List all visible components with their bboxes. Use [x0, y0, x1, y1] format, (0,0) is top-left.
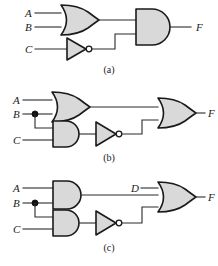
- input-label-a: A: [12, 182, 20, 194]
- not-bubble-bc: [116, 220, 122, 226]
- output-label-f: F: [195, 21, 203, 33]
- not-bubble-bc: [116, 131, 122, 137]
- caption-a: (a): [0, 64, 218, 75]
- circuit-c: A B C D F: [0, 178, 218, 240]
- input-label-c: C: [13, 134, 21, 146]
- or-gate-ab: [52, 92, 90, 122]
- wire-not-to-and: [92, 34, 136, 49]
- caption-c: (c): [0, 242, 218, 253]
- wire-not-to-or: [122, 120, 158, 134]
- not-gate-c: [67, 38, 86, 60]
- input-label-c: C: [25, 43, 33, 55]
- not-bubble-c: [86, 46, 92, 52]
- input-label-b: B: [13, 108, 20, 120]
- and-gate-out: [136, 9, 170, 45]
- not-gate-bc: [96, 122, 116, 146]
- input-label-d: D: [130, 182, 139, 194]
- input-label-b: B: [13, 197, 20, 209]
- caption-b: (b): [0, 152, 218, 163]
- circuit-a: A B C F: [0, 0, 218, 62]
- and-gate-bc: [53, 121, 79, 147]
- input-label-c: C: [13, 223, 21, 235]
- circuit-b: A B C F: [0, 88, 218, 150]
- input-label-b: B: [25, 21, 32, 33]
- input-label-a: A: [24, 7, 32, 19]
- and-gate-bc: [53, 210, 79, 236]
- wire-not-to-or: [122, 207, 158, 223]
- logic-circuit-figure: A B C F (a) A B C: [0, 0, 218, 266]
- output-label-f: F: [207, 191, 215, 203]
- output-label-f: F: [207, 107, 215, 119]
- not-gate-bc: [96, 211, 116, 235]
- or-gate-ab: [61, 5, 99, 35]
- or-gate-out: [158, 98, 196, 128]
- and-gate-ab: [53, 181, 81, 209]
- or-gate-out: [158, 182, 196, 212]
- input-label-a: A: [12, 94, 20, 106]
